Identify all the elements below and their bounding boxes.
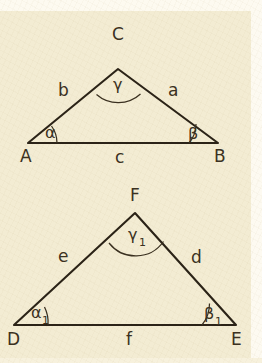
angle-label-gamma-1-subscript: 1 (139, 236, 146, 249)
side-label-c: c (115, 147, 124, 167)
side-label-f: f (126, 329, 133, 349)
vertex-label-d: D (7, 329, 20, 349)
triangle-abc: A B C b a c α β γ (20, 24, 226, 167)
diagram-canvas: A B C b a c α β γ D E F e d f (0, 0, 262, 363)
angle-label-alpha-1: α (31, 303, 42, 322)
triangle-def: D E F e d f α 1 β 1 γ 1 (7, 185, 242, 349)
angle-label-alpha-1-subscript: 1 (42, 314, 49, 327)
angle-label-alpha: α (45, 123, 56, 142)
angle-label-beta-1: β (204, 304, 214, 323)
vertex-label-b: B (214, 146, 226, 166)
angle-label-beta: β (188, 124, 198, 143)
angle-gamma-arc (97, 94, 141, 103)
vertex-label-a: A (20, 146, 32, 166)
vertex-label-e: E (231, 329, 242, 349)
vertex-label-c: C (112, 24, 124, 44)
side-label-b: b (58, 80, 69, 100)
side-label-e: e (58, 246, 68, 266)
angle-label-gamma: γ (113, 75, 122, 94)
angle-label-beta-1-subscript: 1 (215, 315, 222, 328)
side-label-a: a (168, 80, 178, 100)
triangle-def-outline (14, 213, 236, 325)
vertex-label-f: F (130, 185, 140, 205)
angle-label-gamma-1: γ (128, 225, 137, 244)
triangles-figure: A B C b a c α β γ D E F e d f (0, 0, 262, 363)
side-label-d: d (191, 247, 202, 267)
